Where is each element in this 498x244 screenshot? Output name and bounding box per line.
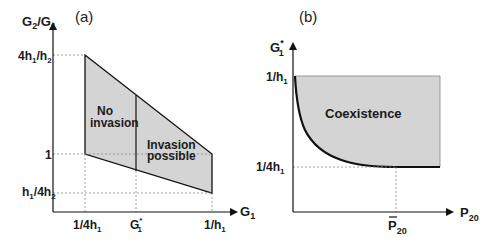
x-axis-label-a: G1: [240, 204, 255, 221]
y-tick-4h1-h2: 4h1/h2: [18, 49, 52, 65]
y-tick-1: 1: [45, 148, 52, 162]
invasion-possible-label: Invasionpossible: [147, 138, 196, 163]
panel-b: (b) G*1 1/h1 1/4h1 P20 P20 Coexistence: [256, 8, 479, 236]
coexistence-region: [295, 76, 440, 167]
figure: (a) G2/G1 4h1/h2 1 h1/4h2 1/4h1 G*1 1/h1…: [0, 0, 498, 244]
x-tick-1-4h1: 1/4h1: [73, 218, 102, 234]
panel-b-label: (b): [299, 8, 317, 25]
panel-a: (a) G2/G1 4h1/h2 1 h1/4h2 1/4h1 G*1 1/h1…: [18, 8, 255, 234]
x-axis-label-b: P20: [460, 205, 479, 223]
y-axis-label-a: G2/G1: [22, 14, 56, 31]
x-tick-g1-star: G*1: [130, 216, 143, 234]
guide-lines-b: [293, 167, 396, 212]
x-tick-p20-bar: P20: [388, 218, 407, 236]
y-tick-1-4h1: 1/4h1: [256, 160, 285, 176]
x-tick-1-h1: 1/h1: [204, 218, 226, 234]
y-tick-1-h1: 1/h1: [266, 70, 288, 86]
coexistence-label: Coexistence: [325, 106, 402, 121]
panel-a-label: (a): [75, 8, 93, 25]
y-tick-h1-4h2: h1/4h2: [22, 185, 56, 201]
y-axis-label-b: G*1: [270, 38, 284, 58]
